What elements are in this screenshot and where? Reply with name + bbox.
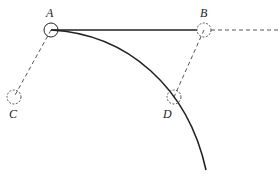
label-b: B	[200, 6, 208, 20]
line-a-c	[14, 30, 51, 97]
label-c: C	[9, 107, 18, 121]
trajectory-curve	[51, 30, 206, 170]
trajectory-diagram: A B C D	[0, 0, 278, 180]
line-b-d	[174, 30, 204, 97]
label-a: A	[45, 6, 54, 20]
label-d: D	[162, 107, 172, 121]
